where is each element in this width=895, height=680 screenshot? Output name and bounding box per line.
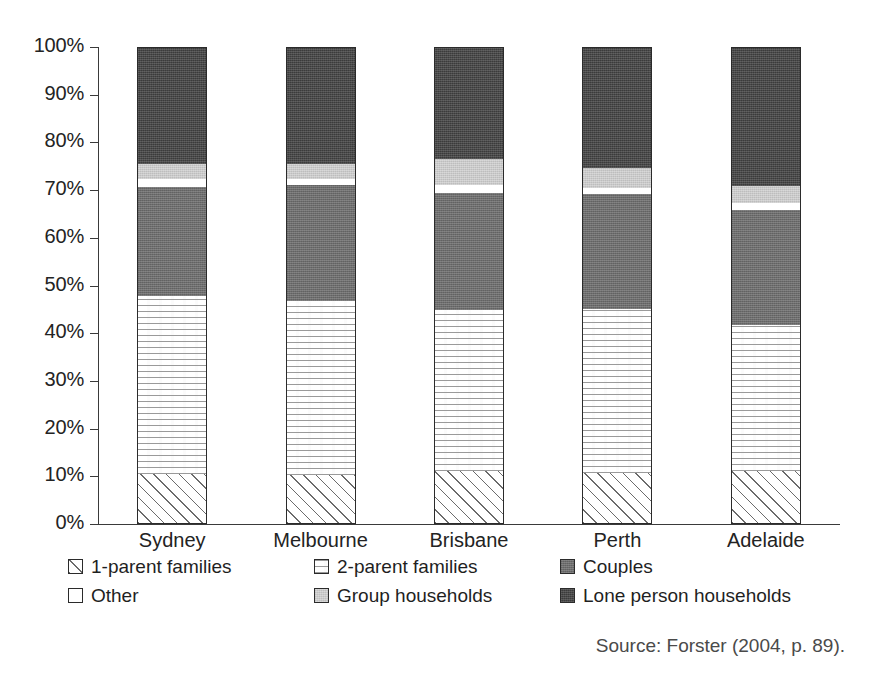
legend-label: Other (91, 586, 139, 605)
bar-segment-lone[interactable] (286, 47, 356, 164)
bar-segment-couples[interactable] (731, 210, 801, 325)
bar-stack (731, 47, 801, 524)
x-axis-label: Adelaide (676, 529, 856, 552)
bar-segment-other[interactable] (434, 185, 504, 192)
bar-segment-2parent[interactable] (137, 296, 207, 474)
legend-swatch-icon (314, 559, 329, 574)
bar-stack (137, 47, 207, 524)
bar-segment-2parent[interactable] (286, 301, 356, 475)
legend-item-1parent[interactable]: 1-parent families (68, 557, 231, 576)
bar-segment-1parent[interactable] (137, 474, 207, 524)
legend-item-group[interactable]: Group households (314, 586, 492, 605)
bar-segment-other[interactable] (137, 179, 207, 187)
y-tick-mark (90, 286, 98, 287)
y-tick-label: 100% (34, 34, 84, 57)
y-tick-label: 30% (45, 368, 84, 391)
y-tick-label: 70% (45, 177, 84, 200)
bar-segment-lone[interactable] (731, 47, 801, 186)
bar-segment-other[interactable] (286, 179, 356, 185)
legend-label: Group households (337, 586, 492, 605)
y-tick-label: 50% (45, 273, 84, 296)
y-tick-label: 90% (45, 82, 84, 105)
bar-segment-2parent[interactable] (434, 310, 504, 471)
bar-segment-1parent[interactable] (434, 471, 504, 524)
legend-swatch-icon (68, 559, 83, 574)
source-note: Source: Forster (2004, p. 89). (596, 635, 845, 657)
bar-segment-couples[interactable] (286, 185, 356, 301)
bar-group[interactable] (582, 47, 652, 524)
legend-item-lone[interactable]: Lone person households (560, 586, 791, 605)
y-tick-mark (90, 190, 98, 191)
bar-segment-1parent[interactable] (731, 471, 801, 524)
bar-group[interactable] (434, 47, 504, 524)
y-tick-mark (90, 95, 98, 96)
bar-group[interactable] (286, 47, 356, 524)
bar-segment-group[interactable] (137, 164, 207, 179)
bar-segment-other[interactable] (731, 203, 801, 209)
bar-segment-lone[interactable] (434, 47, 504, 159)
legend-label: Lone person households (583, 586, 791, 605)
bar-segment-1parent[interactable] (582, 473, 652, 524)
y-tick-mark (90, 429, 98, 430)
legend-row: 1-parent families2-parent familiesCouple… (68, 557, 828, 586)
bar-segment-couples[interactable] (137, 187, 207, 296)
x-axis-line (98, 524, 840, 525)
bar-segment-group[interactable] (731, 186, 801, 203)
legend-swatch-icon (560, 588, 575, 603)
legend-item-2parent[interactable]: 2-parent families (314, 557, 477, 576)
bar-segment-2parent[interactable] (582, 309, 652, 473)
bar-segment-lone[interactable] (137, 47, 207, 164)
legend-swatch-icon (560, 559, 575, 574)
legend-item-other[interactable]: Other (68, 586, 139, 605)
bar-segment-lone[interactable] (582, 47, 652, 168)
y-tick-label: 0% (55, 511, 84, 534)
bar-group[interactable] (731, 47, 801, 524)
bar-stack (434, 47, 504, 524)
legend-item-couples[interactable]: Couples (560, 557, 653, 576)
y-tick-label: 80% (45, 129, 84, 152)
y-tick-mark (90, 381, 98, 382)
y-tick-mark (90, 524, 98, 525)
bar-segment-other[interactable] (582, 188, 652, 194)
y-tick-mark (90, 333, 98, 334)
bar-group[interactable] (137, 47, 207, 524)
bar-segment-2parent[interactable] (731, 325, 801, 471)
legend-swatch-icon (314, 588, 329, 603)
legend-label: 1-parent families (91, 557, 231, 576)
legend-swatch-icon (68, 588, 83, 603)
bar-stack (286, 47, 356, 524)
stacked-bar-chart: 0%10%20%30%40%50%60%70%80%90%100% Sydney… (0, 0, 895, 680)
y-tick-label: 10% (45, 463, 84, 486)
bar-segment-group[interactable] (434, 159, 504, 185)
bar-segment-group[interactable] (582, 168, 652, 188)
bar-segment-group[interactable] (286, 164, 356, 179)
bar-stack (582, 47, 652, 524)
legend-label: 2-parent families (337, 557, 477, 576)
legend-row: OtherGroup householdsLone person househo… (68, 586, 828, 615)
bar-segment-couples[interactable] (582, 194, 652, 309)
y-tick-mark (90, 142, 98, 143)
y-tick-label: 20% (45, 416, 84, 439)
bar-segment-1parent[interactable] (286, 475, 356, 524)
bar-segment-couples[interactable] (434, 193, 504, 311)
y-tick-mark (90, 476, 98, 477)
y-tick-mark (90, 47, 98, 48)
legend-label: Couples (583, 557, 653, 576)
bars-layer (98, 47, 840, 524)
y-tick-mark (90, 238, 98, 239)
y-tick-label: 60% (45, 225, 84, 248)
y-tick-label: 40% (45, 320, 84, 343)
chart-legend: 1-parent families2-parent familiesCouple… (68, 557, 828, 615)
